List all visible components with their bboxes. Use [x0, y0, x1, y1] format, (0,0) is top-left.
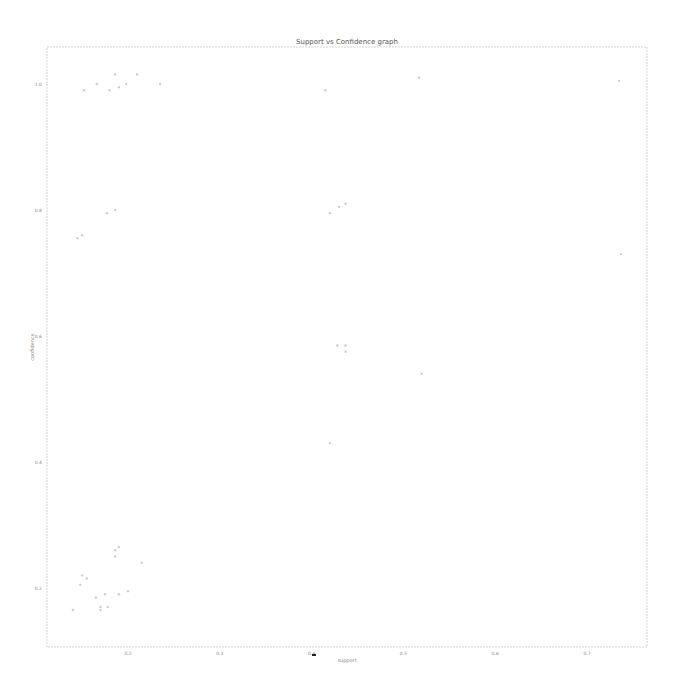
data-point: [99, 609, 101, 611]
y-axis-label: confidence: [29, 333, 35, 360]
y-tick-label: 0.2: [35, 586, 42, 591]
data-point: [618, 80, 620, 82]
x-tick-label: 0.5: [400, 651, 407, 656]
data-point: [81, 574, 83, 576]
plot-frame: [47, 47, 647, 647]
y-axis-ticks: 0.20.40.60.81.0: [35, 82, 42, 591]
data-point: [338, 206, 340, 208]
x-tick-label: 0.7: [583, 651, 590, 656]
data-point: [72, 609, 74, 611]
data-point: [344, 344, 346, 346]
data-point: [118, 86, 120, 88]
data-point: [127, 590, 129, 592]
data-point: [324, 89, 326, 91]
data-point: [99, 606, 101, 608]
x-tick-label: 0.6: [492, 651, 499, 656]
data-point: [83, 89, 85, 91]
data-point: [118, 546, 120, 548]
data-point: [106, 212, 108, 214]
data-point: [95, 596, 97, 598]
data-point: [159, 83, 161, 85]
y-tick-label: 0.8: [35, 208, 42, 213]
scatter-points: [72, 73, 622, 611]
y-tick-label: 0.4: [35, 460, 42, 465]
data-point: [125, 83, 127, 85]
x-tick-label: 0.2: [124, 651, 131, 656]
data-point: [85, 577, 87, 579]
chart-title: Support vs Confidence graph: [296, 38, 398, 46]
data-point: [336, 344, 338, 346]
data-point: [329, 442, 331, 444]
data-point: [118, 593, 120, 595]
data-point: [107, 606, 109, 608]
data-point: [329, 212, 331, 214]
data-point: [114, 555, 116, 557]
data-point: [421, 373, 423, 375]
data-point: [104, 593, 106, 595]
x-axis-label: support: [337, 657, 356, 664]
data-point: [96, 83, 98, 85]
data-point: [81, 234, 83, 236]
data-point: [344, 203, 346, 205]
data-point: [108, 89, 110, 91]
data-point: [141, 562, 143, 564]
x-axis-ticks: 0.20.30.40.50.60.7: [124, 651, 590, 656]
data-point: [76, 237, 78, 239]
y-tick-label: 1.0: [35, 82, 42, 87]
scatter-chart: Support vs Confidence graph 0.20.30.40.5…: [0, 0, 679, 690]
data-point: [620, 253, 622, 255]
data-point: [114, 73, 116, 75]
y-tick-label: 0.6: [35, 334, 42, 339]
x-tick-label: 0.3: [216, 651, 223, 656]
data-point: [114, 209, 116, 211]
data-point: [418, 77, 420, 79]
data-point: [344, 351, 346, 353]
data-point: [114, 549, 116, 551]
annotation-marker: [312, 654, 316, 656]
data-point: [79, 584, 81, 586]
data-point: [136, 73, 138, 75]
